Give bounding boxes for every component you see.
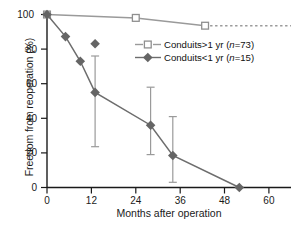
x-axis-title: Months after operation (47, 207, 291, 219)
legend-label-prefix: Conduits>1 yr ( (164, 39, 229, 50)
legend-label-suffix: =73) (235, 39, 254, 50)
series-upper-line (47, 15, 205, 26)
x-tick-label: 36 (167, 195, 193, 206)
x-tick-label: 24 (123, 195, 149, 206)
data-point-marker-isolated (90, 39, 100, 49)
data-point-marker (202, 22, 209, 29)
legend-label: Conduits<1 yr (n=15) (162, 51, 254, 64)
data-point-marker (235, 183, 245, 193)
data-point-marker (90, 88, 100, 98)
legend-item-conduits-over-1yr: Conduits>1 yr (n=73) (134, 38, 254, 51)
x-tick-label: 0 (34, 195, 60, 206)
open-square-icon (134, 38, 162, 51)
x-tick-label: 48 (212, 195, 238, 206)
filled-diamond-icon (134, 51, 162, 64)
error-bars (91, 56, 177, 182)
chart-legend: Conduits>1 yr (n=73) Conduits<1 yr (n=15… (134, 38, 254, 64)
y-tick-label: 100 (10, 9, 34, 20)
x-tick-label: 60 (256, 195, 282, 206)
data-point-marker (76, 57, 86, 67)
y-tick-marks (41, 15, 47, 188)
legend-label-prefix: Conduits<1 yr ( (164, 52, 229, 63)
y-axis-title: Freedom from reoperation (%) (23, 22, 35, 192)
series-conduits-over-1yr (44, 11, 291, 29)
x-tick-label: 12 (78, 195, 104, 206)
legend-item-conduits-under-1yr: Conduits<1 yr (n=15) (134, 51, 254, 64)
legend-label-suffix: =15) (235, 52, 254, 63)
legend-label: Conduits>1 yr (n=73) (162, 38, 254, 51)
data-point-marker (132, 15, 139, 22)
chart-plot-svg (0, 0, 299, 225)
chart-figure: 0 20 40 60 80 100 0 12 24 36 48 60 Freed… (0, 0, 299, 225)
